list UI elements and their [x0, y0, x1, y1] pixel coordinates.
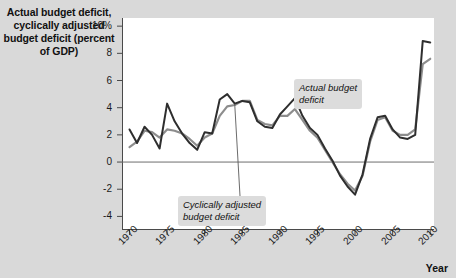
- x-axis-title: Year: [426, 262, 448, 274]
- y-axis-tick-label: 8: [78, 47, 112, 58]
- annotation-actual-budget-deficit: Actual budget deficit: [294, 79, 362, 109]
- y-axis-tick-label: -2: [78, 183, 112, 194]
- y-axis-tick-label: 0: [78, 156, 112, 167]
- y-axis-tick-label: 4: [78, 102, 112, 113]
- y-axis-tick-label: 2: [78, 129, 112, 140]
- data-series-group: [130, 41, 431, 195]
- figure-container: Actual budget deficit, cyclically adjust…: [0, 0, 456, 278]
- tick-marks: [117, 26, 430, 235]
- annotation-cyclically-adjusted-budget-deficit: Cyclically adjusted budget deficit: [178, 196, 266, 226]
- annotation-leader-lines: [235, 98, 296, 196]
- y-axis-tick-label: 6: [78, 75, 112, 86]
- y-axis-tick-label: -4: [78, 210, 112, 221]
- y-axis-tick-label: 10%: [78, 20, 112, 31]
